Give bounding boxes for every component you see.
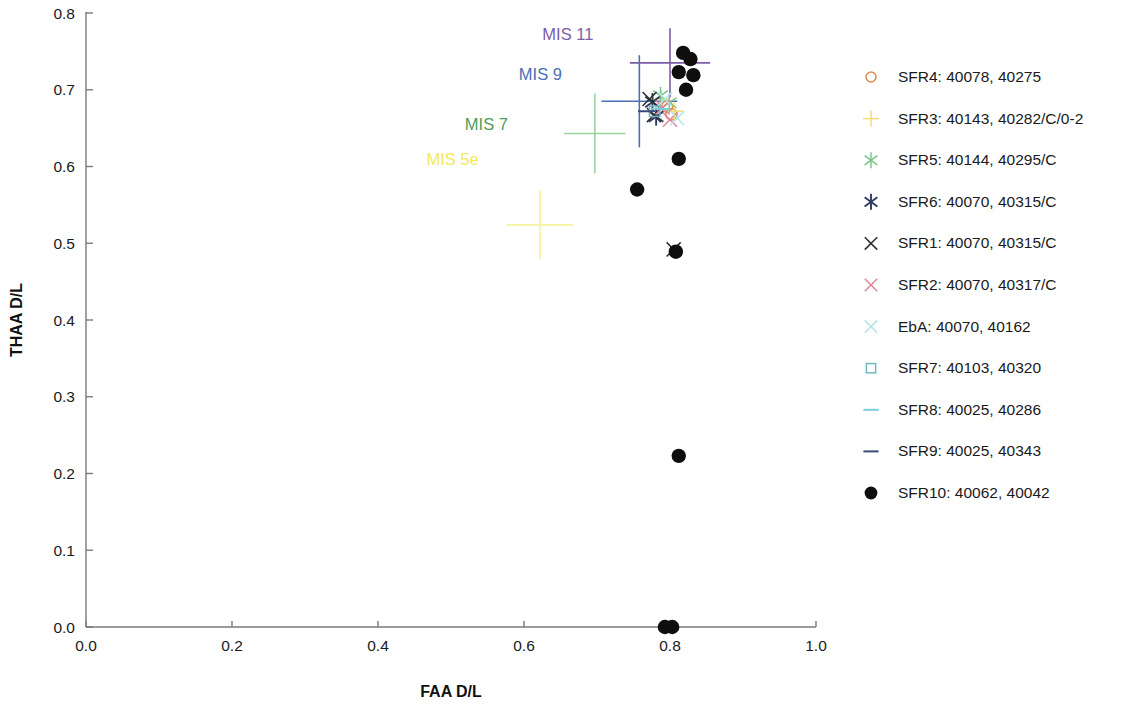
data-point — [672, 152, 686, 166]
x-tick-label: 0.2 — [221, 637, 243, 654]
circle-filled-icon — [665, 620, 679, 634]
legend-item[interactable]: SFR9: 40025, 40343 — [863, 442, 1041, 459]
data-point — [630, 182, 644, 196]
legend-item[interactable]: SFR5: 40144, 40295/C — [865, 151, 1057, 168]
x-tick-label: 1.0 — [805, 637, 827, 654]
circle-filled-icon — [669, 244, 683, 258]
circle-filled-icon — [672, 449, 686, 463]
legend-item-label: SFR5: 40144, 40295/C — [898, 151, 1057, 168]
series-sfr10 — [630, 46, 701, 634]
y-tick-label: 0.8 — [53, 5, 75, 22]
legend-marker-icon — [865, 320, 877, 332]
y-tick-label: 0.2 — [53, 465, 75, 482]
y-tick-label: 0.0 — [53, 619, 75, 636]
circle-filled-icon — [679, 83, 693, 97]
mis-annotation-label: MIS 7 — [465, 115, 508, 133]
x-tick-labels: 0.00.20.40.60.81.0 — [75, 637, 827, 654]
legend-item-label: SFR10: 40062, 40042 — [898, 484, 1050, 501]
circle-filled-icon — [686, 68, 700, 82]
data-point — [672, 65, 686, 79]
plot-area: 0.00.20.40.60.81.0 0.00.10.20.30.40.50.6… — [0, 0, 1126, 715]
legend-item[interactable]: SFR6: 40070, 40315/C — [865, 193, 1057, 210]
mis-annotation-label: MIS 9 — [519, 65, 562, 83]
circle-filled-icon — [865, 487, 878, 500]
data-point — [653, 87, 667, 105]
legend-marker-icon — [865, 194, 878, 210]
x-tick-label: 0.0 — [75, 637, 97, 654]
legend-item-label: SFR7: 40103, 40320 — [898, 359, 1041, 376]
error-crosses — [506, 28, 710, 259]
mis-annotation-label: MIS 11 — [542, 25, 593, 43]
circle-open-icon — [866, 72, 876, 82]
data-point — [665, 620, 679, 634]
legend-item-label: SFR8: 40025, 40286 — [898, 401, 1041, 418]
y-tick-label: 0.7 — [53, 81, 75, 98]
circle-filled-icon — [630, 182, 644, 196]
legend-item[interactable]: SFR10: 40062, 40042 — [865, 484, 1050, 501]
x-tick-label: 0.8 — [659, 637, 681, 654]
legend-item-label: SFR4: 40078, 40275 — [898, 68, 1041, 85]
legend-item-label: SFR1: 40070, 40315/C — [898, 234, 1057, 251]
mis-annotations: MIS 11MIS 9MIS 7MIS 5e — [426, 25, 593, 168]
error-cross — [564, 94, 625, 174]
legend-marker-icon — [865, 237, 877, 249]
legend-marker-icon — [866, 72, 876, 82]
legend-item-label: EbA: 40070, 40162 — [898, 318, 1031, 335]
y-tick-label: 0.3 — [53, 388, 75, 405]
x-tick-label: 0.6 — [513, 637, 535, 654]
legend-marker-icon — [865, 152, 878, 168]
data-point — [679, 83, 693, 97]
legend-marker-icon — [866, 364, 875, 373]
legend-item-label: SFR9: 40025, 40343 — [898, 442, 1041, 459]
legend-marker-icon — [865, 279, 877, 291]
legend-marker-icon — [865, 487, 878, 500]
y-tick-labels: 0.00.10.20.30.40.50.60.70.8 — [53, 5, 75, 636]
circle-filled-icon — [672, 152, 686, 166]
data-point — [669, 244, 683, 258]
data-points — [630, 46, 701, 634]
legend-item-label: SFR3: 40143, 40282/C/0-2 — [898, 110, 1083, 127]
y-tick-label: 0.5 — [53, 235, 75, 252]
x-axis-title: FAA D/L — [420, 683, 482, 700]
y-tick-label: 0.1 — [53, 542, 75, 559]
legend-item[interactable]: SFR8: 40025, 40286 — [863, 401, 1041, 418]
legend-item-label: SFR6: 40070, 40315/C — [898, 193, 1057, 210]
error-cross — [630, 28, 710, 97]
axes — [86, 12, 816, 627]
legend-item[interactable]: SFR3: 40143, 40282/C/0-2 — [863, 110, 1083, 127]
x-tick-label: 0.4 — [367, 637, 389, 654]
scatter-chart: 0.00.20.40.60.81.0 0.00.10.20.30.40.50.6… — [0, 0, 1126, 715]
y-tick-label: 0.4 — [53, 312, 75, 329]
data-point — [686, 68, 700, 82]
legend: SFR4: 40078, 40275SFR3: 40143, 40282/C/0… — [863, 68, 1083, 501]
legend-item[interactable]: SFR2: 40070, 40317/C — [865, 276, 1057, 293]
legend-marker-icon — [863, 111, 879, 127]
circle-filled-icon — [683, 52, 697, 66]
legend-item[interactable]: SFR7: 40103, 40320 — [866, 359, 1041, 376]
data-point — [683, 52, 697, 66]
legend-item[interactable]: SFR1: 40070, 40315/C — [865, 234, 1057, 251]
error-cross — [506, 190, 573, 259]
square-open-icon — [866, 364, 875, 373]
legend-item[interactable]: SFR4: 40078, 40275 — [866, 68, 1041, 85]
legend-item-label: SFR2: 40070, 40317/C — [898, 276, 1057, 293]
data-point — [672, 449, 686, 463]
y-tick-label: 0.6 — [53, 158, 75, 175]
circle-filled-icon — [672, 65, 686, 79]
y-axis-title: THAA D/L — [8, 283, 25, 357]
legend-item[interactable]: EbA: 40070, 40162 — [865, 318, 1031, 335]
mis-annotation-label: MIS 5e — [426, 150, 478, 168]
